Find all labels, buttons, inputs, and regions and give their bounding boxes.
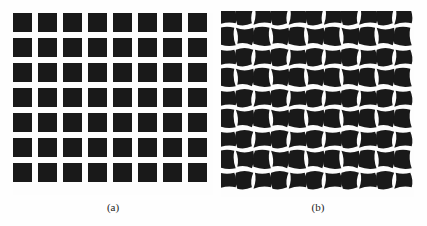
distorted-grid-square — [289, 50, 307, 66]
grid-square — [63, 38, 82, 57]
grid-square — [188, 88, 207, 107]
distorted-grid-square — [221, 132, 236, 148]
grid-square — [113, 63, 132, 82]
distorted-grid-square — [324, 11, 342, 25]
distorted-grid-square — [221, 150, 236, 169]
distorted-grid-square — [324, 91, 342, 107]
distorted-grid-square — [254, 91, 272, 107]
grid-square — [188, 113, 207, 132]
square-grid — [13, 13, 213, 195]
panel-a-grid-image — [13, 13, 213, 195]
grid-square — [38, 38, 57, 57]
grid-square — [13, 38, 32, 57]
distorted-grid-square — [394, 109, 412, 128]
distorted-grid-square — [271, 69, 289, 86]
distorted-grid-square — [288, 150, 306, 169]
grid-square — [38, 13, 57, 32]
distorted-grid-square — [221, 91, 236, 107]
distorted-grid-square — [394, 132, 412, 148]
distorted-grid-square — [270, 171, 288, 189]
grid-square — [63, 63, 82, 82]
grid-square — [88, 163, 107, 182]
grid-square — [38, 163, 57, 182]
grid-square — [113, 163, 132, 182]
grid-square — [163, 38, 182, 57]
distorted-grid-square — [376, 171, 394, 189]
distorted-grid-square — [359, 132, 377, 148]
grid-square — [163, 138, 182, 157]
distorted-grid-square — [394, 173, 412, 189]
distorted-grid-square — [270, 11, 288, 25]
distorted-grid-square — [394, 91, 412, 107]
grid-square — [63, 138, 82, 157]
distorted-grid-square — [394, 150, 412, 169]
distorted-grid-square — [306, 151, 324, 168]
distorted-grid-square — [236, 110, 254, 127]
distorted-grid-square — [376, 89, 394, 107]
distorted-grid-square — [377, 110, 395, 127]
distorted-grid-square — [377, 69, 395, 86]
distorted-grid-square — [358, 27, 376, 46]
grid-square — [188, 138, 207, 157]
grid-square — [138, 113, 157, 132]
distorted-grid-square — [306, 48, 324, 66]
grid-square — [88, 88, 107, 107]
distorted-grid-square — [376, 11, 394, 25]
distorted-grid-square — [289, 11, 307, 25]
distorted-grid-square — [235, 48, 253, 66]
distorted-grid-square — [253, 27, 271, 46]
grid-square — [113, 113, 132, 132]
grid-square — [13, 13, 32, 32]
grid-square — [113, 88, 132, 107]
grid-square — [113, 138, 132, 157]
distorted-grid-square — [306, 69, 324, 86]
distorted-grid-square — [288, 109, 306, 128]
grid-square — [188, 38, 207, 57]
grid-square — [163, 88, 182, 107]
distorted-grid-square — [306, 28, 324, 45]
distorted-grid-square — [254, 132, 272, 148]
distorted-grid-square — [289, 132, 307, 148]
distorted-grid-square — [253, 150, 271, 169]
distorted-grid-square — [253, 68, 271, 87]
distorted-grid-square — [323, 150, 341, 169]
distorted-grid-square — [235, 89, 253, 107]
grid-square — [163, 113, 182, 132]
distorted-grid-square — [359, 50, 377, 66]
grid-square — [38, 113, 57, 132]
distorted-grid-square — [235, 130, 253, 148]
grid-square — [188, 163, 207, 182]
grid-square — [13, 88, 32, 107]
grid-square — [88, 13, 107, 32]
distorted-grid-square — [270, 89, 288, 107]
grid-square — [138, 138, 157, 157]
grid-square — [63, 13, 82, 32]
distorted-grid-square — [358, 68, 376, 87]
distorted-grid-square — [323, 27, 341, 46]
grid-square — [188, 13, 207, 32]
figure-root: (a) (b) — [0, 0, 427, 226]
distorted-grid-square — [306, 130, 324, 148]
grid-square — [88, 113, 107, 132]
distorted-grid-square — [341, 171, 359, 189]
distorted-grid-square — [306, 11, 324, 25]
distorted-grid-square — [341, 89, 359, 107]
distorted-grid-square — [221, 50, 236, 66]
grid-square — [163, 63, 182, 82]
distorted-grid-square — [342, 110, 360, 127]
distorted-grid-square — [323, 109, 341, 128]
grid-square — [138, 163, 157, 182]
distorted-grid-square — [342, 151, 360, 168]
distorted-grid-square — [358, 150, 376, 169]
grid-square — [63, 88, 82, 107]
distorted-grid-square — [394, 27, 412, 46]
distorted-grid-square — [236, 151, 254, 168]
distorted-grid-square — [359, 173, 377, 189]
distorted-grid-square — [221, 68, 236, 87]
distorted-grid-square — [323, 68, 341, 87]
distorted-grid-square — [377, 28, 395, 45]
grid-square — [88, 38, 107, 57]
caption-panel-a: (a) — [93, 201, 133, 213]
grid-square — [38, 88, 57, 107]
distorted-cell-group — [221, 11, 412, 189]
